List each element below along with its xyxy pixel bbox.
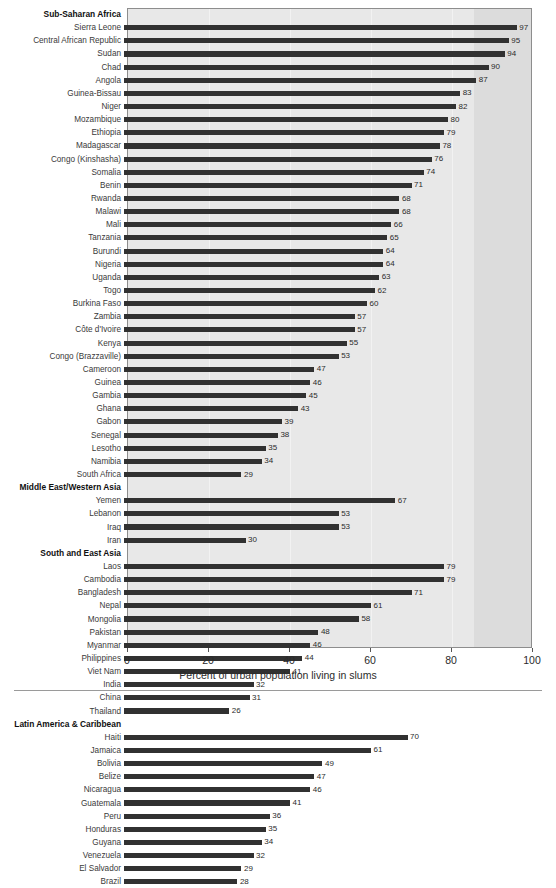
category-label: Nepal bbox=[0, 601, 124, 610]
bar bbox=[124, 616, 359, 621]
bar-value-label: 28 bbox=[237, 876, 248, 888]
bar bbox=[124, 143, 440, 148]
bar bbox=[124, 853, 254, 858]
bar-value-label: 94 bbox=[505, 48, 516, 60]
group-spacer bbox=[124, 8, 556, 21]
category-label: Thailand bbox=[0, 707, 124, 716]
bar bbox=[124, 209, 399, 214]
group-header-row: Middle East/Western Asia bbox=[0, 481, 556, 494]
bar-row: Sierra Leone97 bbox=[0, 21, 556, 34]
bar-row: Bolivia49 bbox=[0, 757, 556, 770]
bar-cell: 47 bbox=[124, 770, 556, 783]
category-label: South Africa bbox=[0, 470, 124, 479]
bar-value-label: 61 bbox=[371, 600, 382, 612]
bar bbox=[124, 603, 371, 608]
category-label: Honduras bbox=[0, 825, 124, 834]
bar bbox=[124, 433, 278, 438]
x-tick-label: 40 bbox=[283, 654, 295, 666]
bar bbox=[124, 511, 339, 516]
bar-value-label: 65 bbox=[387, 232, 398, 244]
category-label: Philippines bbox=[0, 654, 124, 663]
bar bbox=[124, 38, 509, 43]
group-spacer bbox=[124, 547, 556, 560]
bar-value-label: 26 bbox=[229, 705, 240, 717]
group-label: Sub-Saharan Africa bbox=[0, 10, 124, 19]
bar bbox=[124, 472, 241, 477]
bar bbox=[124, 157, 432, 162]
bar bbox=[124, 682, 254, 687]
category-label: Guyana bbox=[0, 838, 124, 847]
category-label: Venezuela bbox=[0, 851, 124, 860]
bar-cell: 57 bbox=[124, 310, 556, 323]
bar bbox=[124, 104, 456, 109]
category-label: Pakistan bbox=[0, 628, 124, 637]
bar bbox=[124, 393, 306, 398]
bar-row: Mongolia58 bbox=[0, 612, 556, 625]
category-label: Niger bbox=[0, 102, 124, 111]
bar-value-label: 90 bbox=[489, 61, 500, 73]
category-label: Lebanon bbox=[0, 509, 124, 518]
bar-value-label: 46 bbox=[310, 784, 321, 796]
bar bbox=[124, 735, 408, 740]
bar-value-label: 53 bbox=[339, 521, 350, 533]
category-label: Rwanda bbox=[0, 194, 124, 203]
bar-row: Nicaragua46 bbox=[0, 783, 556, 796]
bar-cell: 46 bbox=[124, 639, 556, 652]
bar-cell: 68 bbox=[124, 192, 556, 205]
bar bbox=[124, 524, 339, 529]
bar-value-label: 34 bbox=[262, 455, 273, 467]
category-label: Guinea bbox=[0, 378, 124, 387]
bar-value-label: 63 bbox=[379, 271, 390, 283]
bar-value-label: 44 bbox=[302, 652, 313, 664]
bar bbox=[124, 446, 266, 451]
bar-cell: 53 bbox=[124, 350, 556, 363]
category-label: Togo bbox=[0, 286, 124, 295]
x-axis-title: Percent of urban population living in sl… bbox=[0, 669, 556, 681]
category-label: Congo (Brazzaville) bbox=[0, 352, 124, 361]
bar-cell: 78 bbox=[124, 139, 556, 152]
bar-row: Venezuela32 bbox=[0, 849, 556, 862]
bar-row: Iran30 bbox=[0, 534, 556, 547]
bar bbox=[124, 590, 412, 595]
category-label: Benin bbox=[0, 181, 124, 190]
bar-row: Guinea46 bbox=[0, 376, 556, 389]
bar-row: Somalia74 bbox=[0, 166, 556, 179]
category-label: Mali bbox=[0, 220, 124, 229]
bar bbox=[124, 249, 383, 254]
bar-cell: 41 bbox=[124, 796, 556, 809]
bar bbox=[124, 130, 444, 135]
category-label: Laos bbox=[0, 562, 124, 571]
bar-rows: Sub-Saharan AfricaSierra Leone97Central … bbox=[0, 8, 556, 888]
bar bbox=[124, 787, 310, 792]
bar-row: Niger82 bbox=[0, 100, 556, 113]
bar-value-label: 97 bbox=[517, 22, 528, 34]
category-label: China bbox=[0, 693, 124, 702]
category-label: Sudan bbox=[0, 49, 124, 58]
bar bbox=[124, 538, 246, 543]
bar-row: Bangladesh71 bbox=[0, 586, 556, 599]
category-label: Yemen bbox=[0, 496, 124, 505]
bar bbox=[124, 341, 347, 346]
category-label: Haiti bbox=[0, 733, 124, 742]
bar-row: Philippines44 bbox=[0, 652, 556, 665]
bar bbox=[124, 866, 241, 871]
bar-row: Myanmar46 bbox=[0, 639, 556, 652]
bar bbox=[124, 459, 262, 464]
bar-row: Ethiopia79 bbox=[0, 126, 556, 139]
category-label: Iran bbox=[0, 536, 124, 545]
bar-cell: 63 bbox=[124, 271, 556, 284]
x-axis: 020406080100 bbox=[127, 648, 532, 649]
bar-row: Côte d'Ivoire57 bbox=[0, 323, 556, 336]
bar-cell: 28 bbox=[124, 875, 556, 888]
bar bbox=[124, 235, 387, 240]
category-label: Gambia bbox=[0, 391, 124, 400]
category-label: Bangladesh bbox=[0, 588, 124, 597]
bar-cell: 79 bbox=[124, 560, 556, 573]
group-header-row: Sub-Saharan Africa bbox=[0, 8, 556, 21]
bar-cell: 47 bbox=[124, 363, 556, 376]
bar bbox=[124, 577, 444, 582]
bar-row: Mozambique80 bbox=[0, 113, 556, 126]
bar-value-label: 57 bbox=[355, 324, 366, 336]
bar-row: Senegal38 bbox=[0, 429, 556, 442]
